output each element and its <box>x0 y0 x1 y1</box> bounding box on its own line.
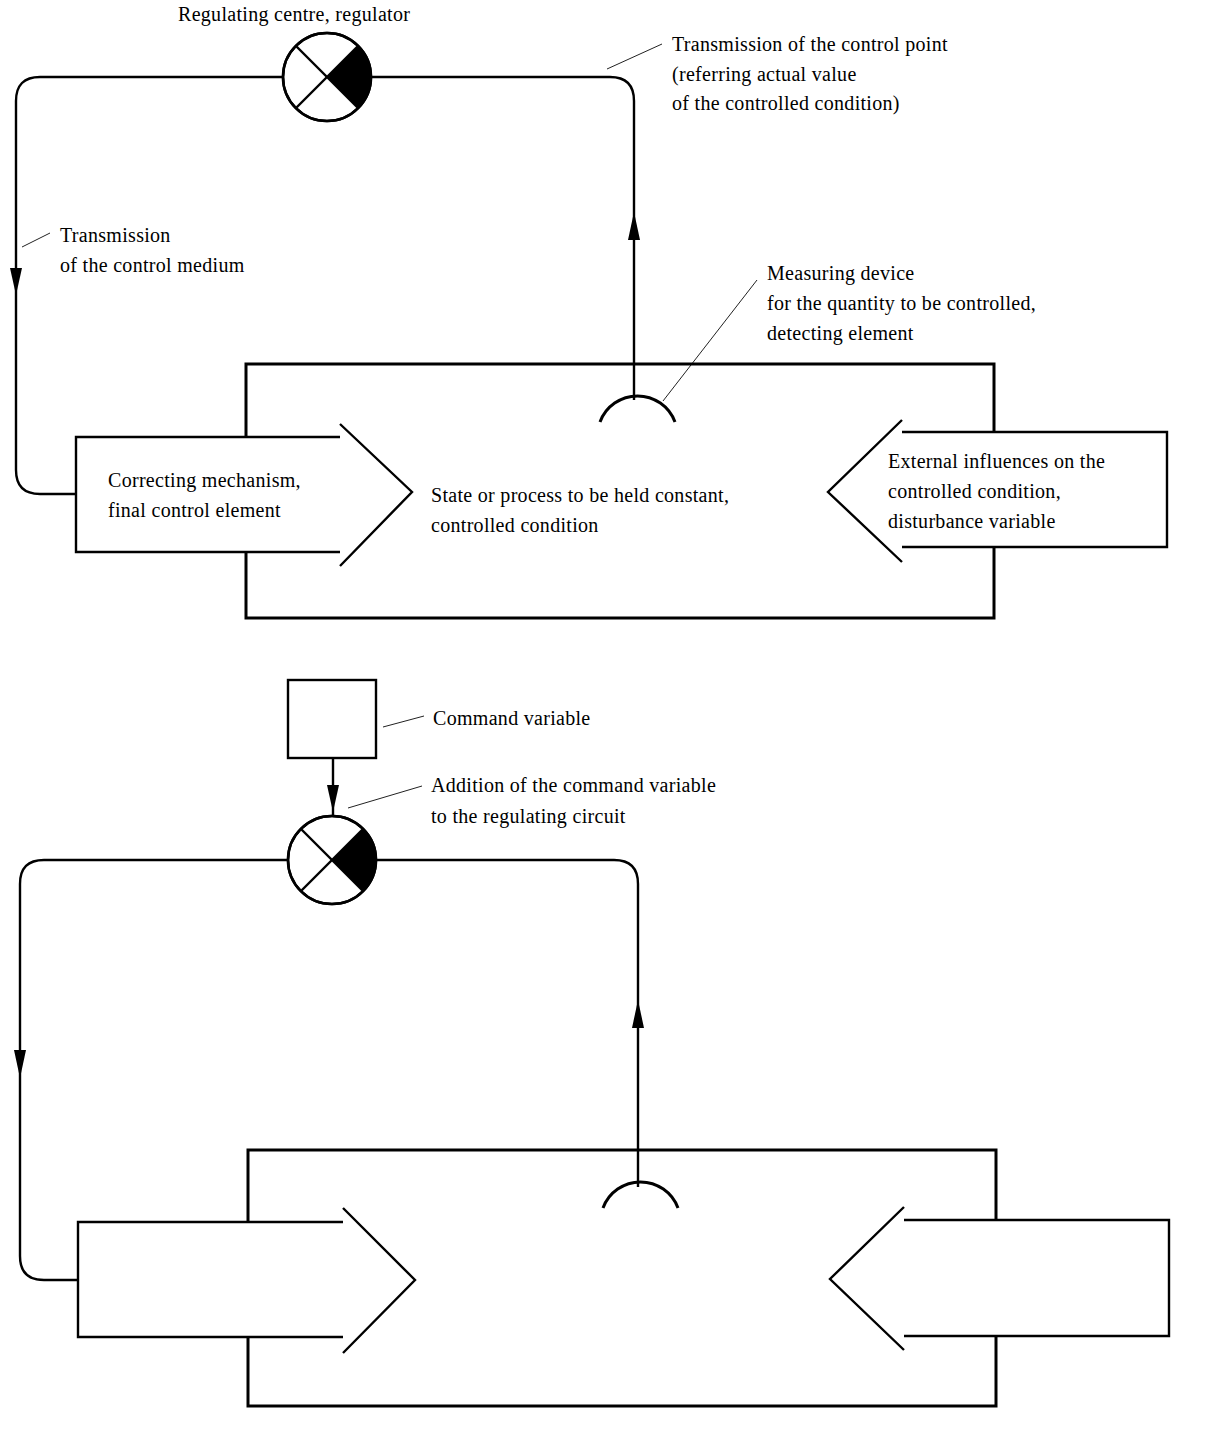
leader-line <box>22 233 50 247</box>
svg-text:(referring actual value: (referring actual value <box>672 63 857 86</box>
svg-text:to the regulating circuit: to the regulating circuit <box>431 805 626 828</box>
addition-command-variable-label: Addition of the command variable to the … <box>431 774 716 828</box>
command-variable-label: Command variable <box>433 707 591 729</box>
svg-text:detecting element: detecting element <box>767 322 914 345</box>
arrow-down-icon <box>327 785 339 812</box>
panel-basic-control-loop: Regulating centre, regulator Transmissio… <box>10 3 1167 618</box>
svg-text:Addition of the command variab: Addition of the command variable <box>431 774 716 796</box>
correcting-mechanism-label: Correcting mechanism, <box>108 469 301 492</box>
external-influences-arrow: External influences on the controlled co… <box>828 420 1167 562</box>
svg-text:controlled condition: controlled condition <box>431 514 599 536</box>
transmission-control-medium-label: Transmission of the control medium <box>60 224 245 276</box>
svg-text:Measuring device: Measuring device <box>767 262 915 285</box>
controlled-condition-label: State or process to be held constant, <box>431 484 729 507</box>
leader-line <box>383 716 424 727</box>
correcting-mechanism-arrow: Correcting mechanism, final control elem… <box>76 424 412 566</box>
svg-text:of the controlled condition): of the controlled condition) <box>672 92 900 115</box>
measuring-device-icon <box>603 1182 678 1208</box>
control-point-line <box>376 860 638 1187</box>
svg-text:Transmission of the control po: Transmission of the control point <box>672 33 948 56</box>
control-point-line <box>372 77 634 400</box>
control-loop-diagram: Regulating centre, regulator Transmissio… <box>0 0 1205 1454</box>
external-influences-arrow <box>830 1207 1169 1350</box>
external-influences-label: External influences on the <box>888 450 1105 472</box>
command-variable-box <box>288 680 376 758</box>
transmission-control-point-label: Transmission of the control point (refer… <box>672 33 948 115</box>
regulator-symbol-icon <box>283 33 371 121</box>
panel-control-loop-with-command-variable: Command variable Addition of the command… <box>14 680 1169 1406</box>
arrow-down-icon <box>10 268 22 295</box>
svg-text:Transmission: Transmission <box>60 224 171 246</box>
leader-line <box>348 786 422 808</box>
regulator-symbol-icon <box>288 816 376 904</box>
svg-text:of the control medium: of the control medium <box>60 254 245 276</box>
arrow-up-icon <box>628 212 640 240</box>
svg-text:disturbance variable: disturbance variable <box>888 510 1056 532</box>
control-medium-line <box>16 77 282 494</box>
measuring-device-label: Measuring device for the quantity to be … <box>767 262 1036 345</box>
arrow-up-icon <box>632 1000 644 1028</box>
svg-text:controlled condition,: controlled condition, <box>888 480 1061 502</box>
regulator-label: Regulating centre, regulator <box>178 3 410 26</box>
svg-text:for the quantity to be control: for the quantity to be controlled, <box>767 292 1036 315</box>
leader-line <box>663 280 757 401</box>
arrow-down-icon <box>14 1050 26 1078</box>
correcting-mechanism-arrow <box>78 1208 415 1353</box>
leader-line <box>607 44 662 69</box>
svg-text:final control element: final control element <box>108 499 281 521</box>
